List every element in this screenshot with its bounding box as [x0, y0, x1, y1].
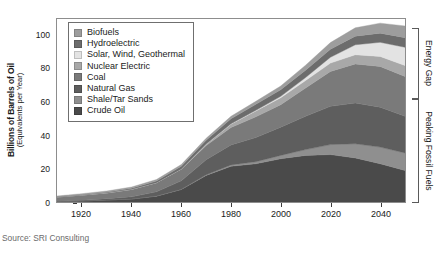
legend-item-label: Solar, Wind, Geothermal	[87, 50, 185, 59]
legend-item[interactable]: Solar, Wind, Geothermal	[74, 49, 185, 60]
x-axis-tick-mark	[281, 203, 282, 207]
x-axis-tick-mark	[231, 203, 232, 207]
legend-swatch-icon	[74, 73, 82, 81]
legend-item[interactable]: Nuclear Electric	[74, 61, 185, 72]
x-axis-tick-mark	[331, 203, 332, 207]
x-axis-tick-label: 1960	[171, 209, 191, 219]
y-axis-tick-label: 20	[40, 164, 50, 174]
legend-item[interactable]: Shale/Tar Sands	[74, 94, 185, 105]
legend-item[interactable]: Coal	[74, 72, 185, 83]
legend-swatch-icon	[74, 29, 82, 37]
legend-item-label: Crude Oil	[87, 106, 125, 115]
legend: BiofuelsHydroelectricSolar, Wind, Geothe…	[68, 22, 194, 122]
x-axis-tick-mark	[81, 203, 82, 207]
x-axis-tick-label: 2040	[371, 209, 391, 219]
x-axis-tick-label: 2020	[321, 209, 341, 219]
x-axis-tick-mark	[131, 203, 132, 207]
legend-item[interactable]: Natural Gas	[74, 83, 185, 94]
legend-swatch-icon	[74, 40, 82, 48]
y-axis-tick-label: 0	[45, 198, 50, 208]
x-axis-tick-label: 2000	[271, 209, 291, 219]
annotation-label: Energy Gap	[424, 40, 434, 86]
chart-container: Billions of Barrels of Oil (Equivalents …	[0, 0, 444, 253]
legend-swatch-icon	[74, 85, 82, 93]
x-axis-tick-label: 1940	[121, 209, 141, 219]
legend-swatch-icon	[74, 51, 82, 59]
x-axis-tick-mark	[181, 203, 182, 207]
x-axis-tick-mark	[381, 203, 382, 207]
legend-item-label: Hydroelectric	[87, 39, 140, 48]
legend-item[interactable]: Crude Oil	[74, 105, 185, 116]
y-axis-tick-label: 80	[40, 63, 50, 73]
legend-swatch-icon	[74, 62, 82, 70]
legend-item-label: Shale/Tar Sands	[87, 95, 153, 104]
legend-item[interactable]: Biofuels	[74, 27, 185, 38]
legend-item-label: Coal	[87, 73, 106, 82]
y-axis-tick-label: 60	[40, 97, 50, 107]
y-axis-tick-label: 100	[36, 30, 50, 40]
y-axis-tick-label: 40	[40, 131, 50, 141]
y-axis-tick-mark	[73, 203, 77, 204]
x-axis-tick-label: 1980	[221, 209, 241, 219]
source-caption: Source: SRI Consulting	[2, 233, 89, 243]
legend-swatch-icon	[74, 96, 82, 104]
legend-item-label: Natural Gas	[87, 84, 135, 93]
legend-swatch-icon	[74, 107, 82, 115]
y-axis-ticks: 020406080100	[22, 0, 50, 253]
legend-item-label: Biofuels	[87, 28, 119, 37]
annotation-bracket	[412, 28, 419, 99]
annotation-label: Peaking Fossil Fuels	[424, 111, 434, 190]
legend-item-label: Nuclear Electric	[87, 62, 150, 71]
x-axis-tick-label: 1920	[71, 209, 91, 219]
annotation-bracket	[412, 99, 419, 203]
legend-item[interactable]: Hydroelectric	[74, 38, 185, 49]
